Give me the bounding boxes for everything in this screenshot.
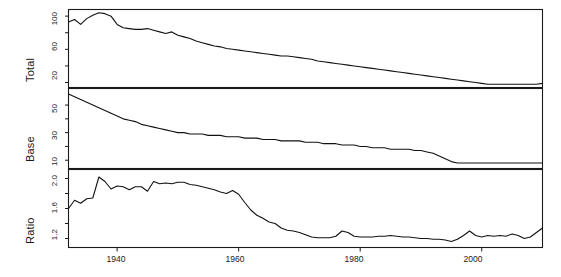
ytick-total-60: 60	[50, 42, 59, 51]
axis-label-ratio: Ratio	[24, 186, 36, 244]
base-panel-frame	[69, 89, 543, 169]
base-panel-series-base	[69, 94, 543, 163]
ytick-total-20: 20	[50, 71, 59, 80]
ytick-total-100: 100	[50, 12, 59, 25]
xtick-2000: 2000	[464, 254, 483, 264]
ratio-panel-series-ratio	[69, 177, 543, 242]
chart-root: Total Base Ratio 100 60 20 50 30 10 2.0 …	[0, 0, 561, 277]
xtick-1980: 1980	[345, 254, 364, 264]
xtick-1940: 1940	[107, 254, 126, 264]
axis-label-base: Base	[24, 104, 36, 162]
ratio-panel-frame	[69, 170, 543, 248]
xtick-1960: 1960	[226, 254, 245, 264]
ytick-ratio-1.6: 1.6	[50, 202, 59, 213]
axis-label-total: Total	[24, 22, 36, 82]
ytick-base-30: 30	[50, 131, 59, 140]
ytick-base-50: 50	[50, 104, 59, 113]
ytick-ratio-2.0: 2.0	[50, 175, 59, 186]
chart-canvas	[0, 0, 561, 277]
ytick-base-10: 10	[50, 157, 59, 166]
ytick-ratio-1.2: 1.2	[50, 229, 59, 240]
total-panel-frame	[69, 10, 543, 88]
total-panel-series-total	[69, 13, 543, 84]
